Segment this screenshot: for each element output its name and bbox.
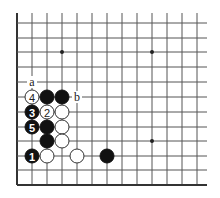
move-number: 1 xyxy=(29,151,35,163)
white-stone-icon xyxy=(55,105,69,119)
move-number: 2 xyxy=(44,107,50,119)
move-number: 3 xyxy=(29,107,35,119)
white-stone xyxy=(40,149,54,163)
white-stone xyxy=(55,120,69,134)
black-stone-1: 1 xyxy=(25,149,39,163)
star-point xyxy=(150,139,154,143)
white-stone-icon xyxy=(70,149,84,163)
black-stone xyxy=(40,134,54,148)
white-stone-icon xyxy=(55,134,69,148)
star-point xyxy=(150,50,154,54)
white-stone xyxy=(55,105,69,119)
black-stone xyxy=(100,149,114,163)
position-label-a: a xyxy=(29,75,35,89)
white-stone xyxy=(55,134,69,148)
black-stone-icon xyxy=(40,134,54,148)
move-number: 4 xyxy=(29,92,35,104)
black-stone-5: 5 xyxy=(25,120,39,134)
white-stone-4: 4 xyxy=(25,90,39,104)
white-stone-icon xyxy=(55,120,69,134)
black-stone xyxy=(55,90,69,104)
black-stone-icon xyxy=(55,90,69,104)
white-stone xyxy=(70,149,84,163)
star-point xyxy=(60,50,64,54)
position-label-b: b xyxy=(74,90,80,104)
white-stone-2: 2 xyxy=(40,105,54,119)
go-board-diagram: ab 43251 xyxy=(0,0,220,198)
black-stone-3: 3 xyxy=(25,105,39,119)
black-stone xyxy=(40,120,54,134)
black-stone xyxy=(40,90,54,104)
black-stone-icon xyxy=(40,90,54,104)
move-number: 5 xyxy=(29,122,35,134)
black-stone-icon xyxy=(40,120,54,134)
white-stone-icon xyxy=(40,149,54,163)
black-stone-icon xyxy=(100,149,114,163)
